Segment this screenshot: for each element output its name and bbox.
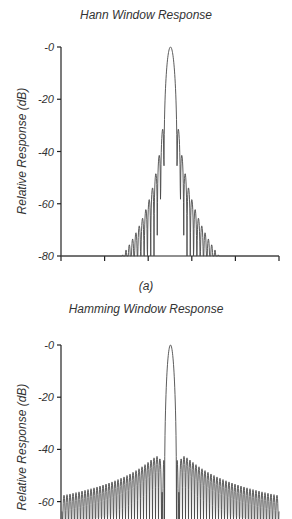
y-tick-label: -20 bbox=[38, 391, 55, 403]
y-tick-label: -40 bbox=[38, 443, 55, 455]
response-curve bbox=[62, 345, 279, 519]
y-tick-label: -60 bbox=[38, 496, 55, 508]
y-tick-label: -0 bbox=[44, 339, 55, 351]
hamming-plot: -0-20-40-60 bbox=[0, 0, 292, 519]
